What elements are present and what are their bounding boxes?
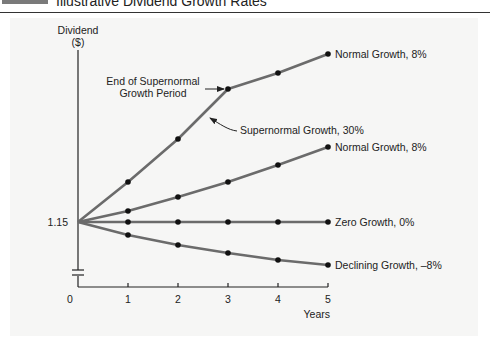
supernormal-growth-label: Supernormal Growth, 30% — [240, 124, 364, 136]
x-tick-0: 0 — [67, 293, 73, 305]
x-tick-1: 1 — [125, 293, 131, 305]
series-normal — [78, 147, 328, 222]
x-tick-5: 5 — [325, 293, 331, 305]
y-axis — [72, 50, 84, 287]
end-supernormal-label-1: End of Supernormal — [106, 75, 199, 87]
label-declining-growth: Declining Growth, –8% — [335, 259, 442, 271]
x-tick-4: 4 — [275, 293, 281, 305]
label-normal-growth-top: Normal Growth, 8% — [335, 48, 427, 60]
x-tick-3: 3 — [225, 293, 231, 305]
end-supernormal-label-2: Growth Period — [119, 87, 186, 99]
label-normal-growth-mid: Normal Growth, 8% — [335, 141, 427, 153]
x-tick-2: 2 — [175, 293, 181, 305]
x-axis — [78, 283, 328, 287]
y-axis-title-line1: Dividend — [58, 24, 99, 36]
supernormal-arrow — [210, 118, 237, 131]
y-axis-title-line2: ($) — [72, 36, 85, 48]
label-zero-growth: Zero Growth, 0% — [335, 216, 414, 228]
series-declining — [78, 222, 328, 265]
x-axis-title: Years — [304, 308, 330, 320]
chart: Dividend ($) 1.15 0 1 2 3 4 5 Years End … — [0, 0, 490, 344]
y-tick-label: 1.15 — [48, 216, 69, 228]
